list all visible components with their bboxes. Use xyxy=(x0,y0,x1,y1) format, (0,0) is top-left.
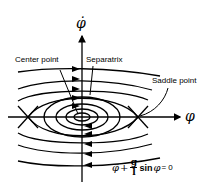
eq-term1: φ̈ xyxy=(112,162,119,173)
eq-fraction: g l xyxy=(130,158,137,177)
eq-plus: + xyxy=(120,162,128,173)
eq-sin: sin xyxy=(139,163,152,173)
eq-equals: = 0 xyxy=(161,163,172,172)
eq-denominator: l xyxy=(132,168,135,177)
separatrix-label: Separatrix xyxy=(86,56,122,64)
rotating-orbits-top xyxy=(18,69,160,101)
center-point-label: Center point xyxy=(15,56,59,64)
horizontal-axis-label: φ xyxy=(185,109,195,123)
pendulum-equation: φ̈ + g l sin φ = 0 xyxy=(112,158,173,177)
eq-var: φ xyxy=(153,162,160,173)
saddle-point-leader xyxy=(140,88,168,116)
eq-numerator: g xyxy=(131,158,137,167)
saddle-point-label: Saddle point xyxy=(152,77,196,85)
vertical-axis-label: φ̇ xyxy=(76,16,86,30)
